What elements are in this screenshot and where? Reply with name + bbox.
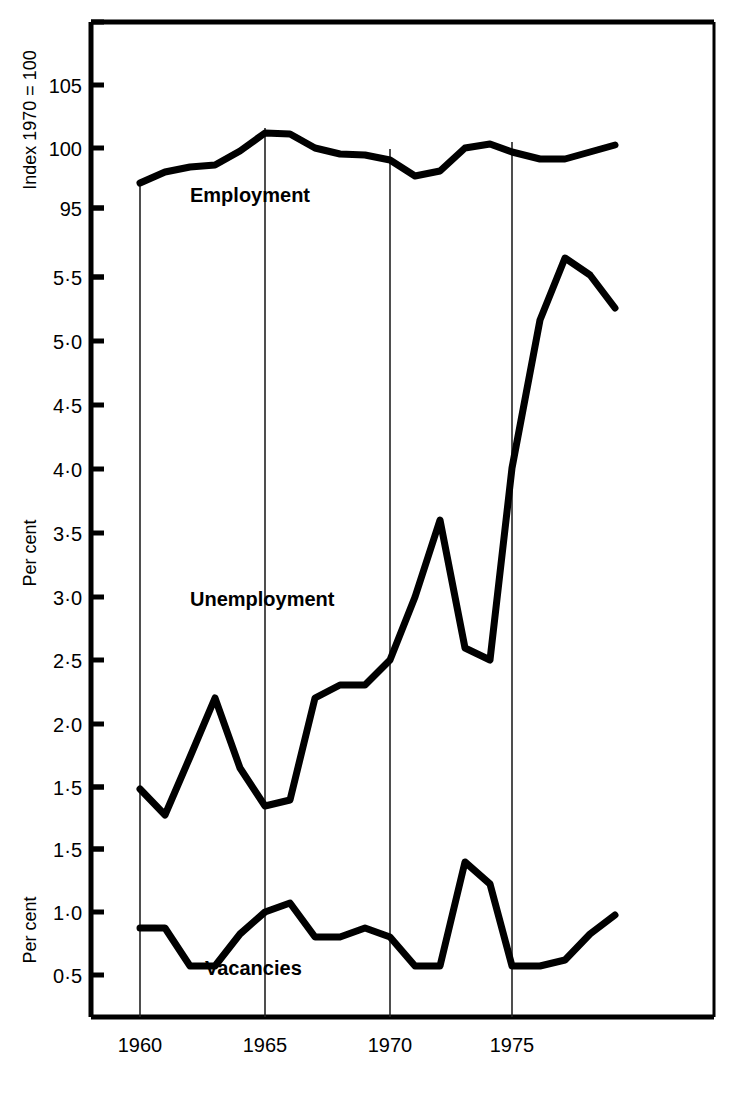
- x-tick-label-1965: 1965: [243, 1034, 288, 1056]
- un-tick-label-55: 5·5: [53, 267, 82, 289]
- un-tick-label-30: 3·0: [53, 587, 82, 609]
- chart-canvas: 105 100 95 Index 1970 = 100 Employment 5…: [0, 0, 729, 1094]
- vacancies-series-label: Vacancies: [205, 957, 302, 979]
- un-tick-label-20: 2·0: [53, 714, 82, 736]
- panel-unemployment: 5·5 5·0 4·5 4·0 3·5 3·0 2·5 2·0 1·5 Per …: [20, 258, 615, 815]
- un-tick-label-40: 4·0: [53, 459, 82, 481]
- x-tick-label-1960: 1960: [118, 1034, 163, 1056]
- panel-employment: 105 100 95 Index 1970 = 100 Employment: [20, 22, 615, 220]
- un-tick-label-50: 5·0: [53, 331, 82, 353]
- vacancies-line: [140, 862, 615, 966]
- vac-tick-label-10: 1·0: [53, 902, 82, 924]
- un-tick-label-35: 3·5: [53, 523, 82, 545]
- unemployment-line: [140, 258, 615, 815]
- emp-tick-label-100: 100: [49, 138, 82, 160]
- un-tick-label-25: 2·5: [53, 650, 82, 672]
- un-tick-label-15: 1·5: [53, 777, 82, 799]
- panel-vacancies: 1·5 1·0 0·5 Per cent Vacancies: [20, 839, 615, 987]
- emp-tick-label-105: 105: [49, 75, 82, 97]
- unemployment-series-label: Unemployment: [190, 588, 335, 610]
- unemployment-axis-title: Per cent: [20, 519, 40, 586]
- x-tick-label-1970: 1970: [368, 1034, 413, 1056]
- x-axis-labels: 1960 1965 1970 1975: [118, 1034, 535, 1056]
- employment-line: [140, 133, 615, 183]
- emp-tick-label-95: 95: [60, 198, 82, 220]
- vac-tick-label-15: 1·5: [53, 839, 82, 861]
- employment-series-label: Employment: [190, 184, 310, 206]
- vacancies-axis-title: Per cent: [20, 896, 40, 963]
- x-tick-label-1975: 1975: [490, 1034, 535, 1056]
- vac-tick-label-05: 0·5: [53, 965, 82, 987]
- un-tick-label-45: 4·5: [53, 395, 82, 417]
- chart-figure: 105 100 95 Index 1970 = 100 Employment 5…: [0, 0, 729, 1094]
- employment-axis-title: Index 1970 = 100: [20, 50, 40, 190]
